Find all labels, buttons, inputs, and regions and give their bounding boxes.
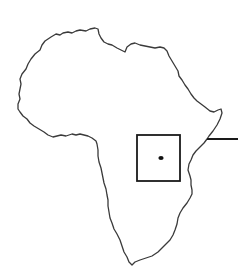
location-marker-dot xyxy=(158,156,163,160)
africa-map xyxy=(0,0,238,268)
africa-outline xyxy=(18,28,222,265)
